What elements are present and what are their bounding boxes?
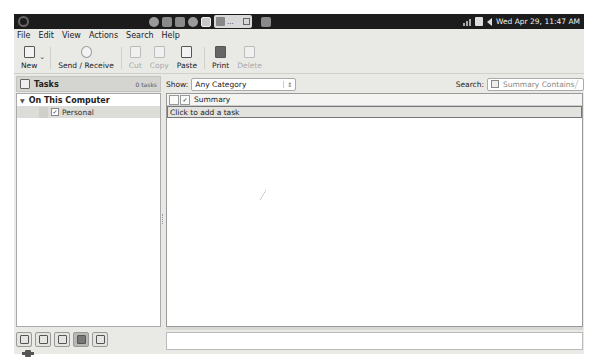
copy-label: Copy xyxy=(150,61,169,70)
battery-icon[interactable] xyxy=(475,17,483,26)
contacts-icon xyxy=(39,335,48,344)
toolbar-separator xyxy=(50,47,51,69)
search-label: Search: xyxy=(456,80,484,89)
clipboard-icon xyxy=(181,46,192,58)
tree-item-personal[interactable]: ✓ Personal xyxy=(17,106,160,118)
menu-actions[interactable]: Actions xyxy=(89,31,118,40)
files-icon[interactable] xyxy=(162,17,172,27)
chevron-down-icon[interactable]: ⌄ xyxy=(39,53,45,61)
switcher-memos-button[interactable] xyxy=(92,332,108,347)
switcher-contacts-button[interactable] xyxy=(35,332,51,347)
toolbar-separator xyxy=(204,47,205,69)
copy-button[interactable]: Copy xyxy=(146,43,173,73)
menu-bar: File Edit View Actions Search Help xyxy=(14,29,584,42)
new-button[interactable]: New xyxy=(17,43,41,73)
send-receive-label: Send / Receive xyxy=(58,61,114,70)
sidebar: Tasks 0 tasks ▼ On This Computer ✓ Perso… xyxy=(16,76,161,327)
toolbar: New ⌄ Send / Receive Cut Copy Paste Prin… xyxy=(14,42,584,74)
menu-help[interactable]: Help xyxy=(162,31,180,40)
task-preview-pane xyxy=(166,332,583,350)
category-value: Any Category xyxy=(195,80,246,89)
menu-search[interactable]: Search xyxy=(126,31,153,40)
new-label: New xyxy=(21,61,37,70)
desktop-screen: ... Wed Apr 29, 11:47 AM File Edit View … xyxy=(14,14,584,354)
tree-group-label: On This Computer xyxy=(29,96,110,105)
menu-file[interactable]: File xyxy=(17,31,30,40)
tree-item-label: Personal xyxy=(62,108,94,117)
task-count: 0 tasks xyxy=(136,81,157,88)
preview-splitter[interactable] xyxy=(166,327,583,330)
add-task-row[interactable]: Click to add a task xyxy=(167,106,582,118)
print-label: Print xyxy=(212,61,229,70)
tasks-icon xyxy=(20,79,30,89)
search-input[interactable]: Summary Contains xyxy=(487,78,584,91)
paste-label: Paste xyxy=(177,61,197,70)
clock[interactable]: Wed Apr 29, 11:47 AM xyxy=(496,17,580,26)
select-arrows-icon: ⇕ xyxy=(283,81,292,88)
color-swatch xyxy=(39,107,48,118)
menu-edit[interactable]: Edit xyxy=(38,31,54,40)
evolution-icon[interactable] xyxy=(201,17,211,27)
type-column-icon[interactable] xyxy=(169,95,179,105)
task-table: ✓ Summary Click to add a task xyxy=(166,93,583,327)
paste-button[interactable]: Paste xyxy=(173,43,201,73)
search-placeholder: Summary Contains xyxy=(503,80,575,89)
workspace-switcher-icon[interactable] xyxy=(261,17,271,27)
category-select[interactable]: Any Category ⇕ xyxy=(191,78,296,91)
switcher-mail-button[interactable] xyxy=(16,332,32,347)
send-receive-icon xyxy=(81,46,92,58)
cut-button[interactable]: Cut xyxy=(125,43,146,73)
scissors-icon xyxy=(130,46,141,58)
show-label: Show: xyxy=(166,80,188,89)
delete-label: Delete xyxy=(237,61,262,70)
sidebar-title: Tasks xyxy=(34,80,59,89)
delete-button[interactable]: Delete xyxy=(233,43,266,73)
taskbar-window-button[interactable]: ... xyxy=(214,15,252,28)
search-icon[interactable] xyxy=(491,80,499,88)
table-header: ✓ Summary xyxy=(167,94,582,106)
column-summary[interactable]: Summary xyxy=(191,95,230,104)
component-switcher xyxy=(16,332,108,347)
clear-icon[interactable] xyxy=(574,80,581,89)
trash-icon xyxy=(244,46,255,58)
mail-icon xyxy=(20,335,29,344)
main-menu-icon[interactable] xyxy=(18,16,29,27)
calendar-icon xyxy=(58,335,67,344)
expander-triangle-icon[interactable]: ▼ xyxy=(20,97,25,104)
complete-column-icon[interactable]: ✓ xyxy=(180,95,190,105)
pane-splitter[interactable] xyxy=(162,214,164,224)
task-list-tree: ▼ On This Computer ✓ Personal xyxy=(16,93,161,327)
tasks-icon xyxy=(77,335,86,344)
mouse-cursor xyxy=(260,190,266,200)
help-icon[interactable] xyxy=(188,17,198,27)
switcher-tasks-button[interactable] xyxy=(73,332,89,347)
new-task-icon xyxy=(24,46,35,58)
menu-view[interactable]: View xyxy=(62,31,81,40)
terminal-icon[interactable] xyxy=(175,17,185,27)
send-receive-button[interactable]: Send / Receive xyxy=(54,43,118,73)
network-signal-icon[interactable] xyxy=(463,18,471,26)
print-button[interactable]: Print xyxy=(208,43,233,73)
memos-icon xyxy=(96,335,105,344)
tasks-app-icon xyxy=(216,17,225,26)
close-icon[interactable] xyxy=(243,18,250,25)
launcher-tray: ... xyxy=(149,15,271,28)
printer-icon xyxy=(215,46,226,58)
sidebar-header: Tasks 0 tasks xyxy=(16,76,161,92)
toolbar-separator xyxy=(121,47,122,69)
volume-icon[interactable] xyxy=(487,18,492,26)
cut-label: Cut xyxy=(129,61,142,70)
copy-icon xyxy=(154,46,165,58)
personal-checkbox[interactable]: ✓ xyxy=(51,108,59,116)
taskbar-window-label: ... xyxy=(227,18,234,26)
filter-bar: Show: Any Category ⇕ Search: Summary Con… xyxy=(166,76,584,92)
firefox-icon[interactable] xyxy=(149,17,159,27)
switcher-calendar-button[interactable] xyxy=(54,332,70,347)
system-tray: Wed Apr 29, 11:47 AM xyxy=(463,14,580,29)
online-status-icon[interactable] xyxy=(22,352,34,355)
top-panel: ... Wed Apr 29, 11:47 AM xyxy=(14,14,584,29)
tree-group-on-this-computer[interactable]: ▼ On This Computer xyxy=(17,94,160,106)
